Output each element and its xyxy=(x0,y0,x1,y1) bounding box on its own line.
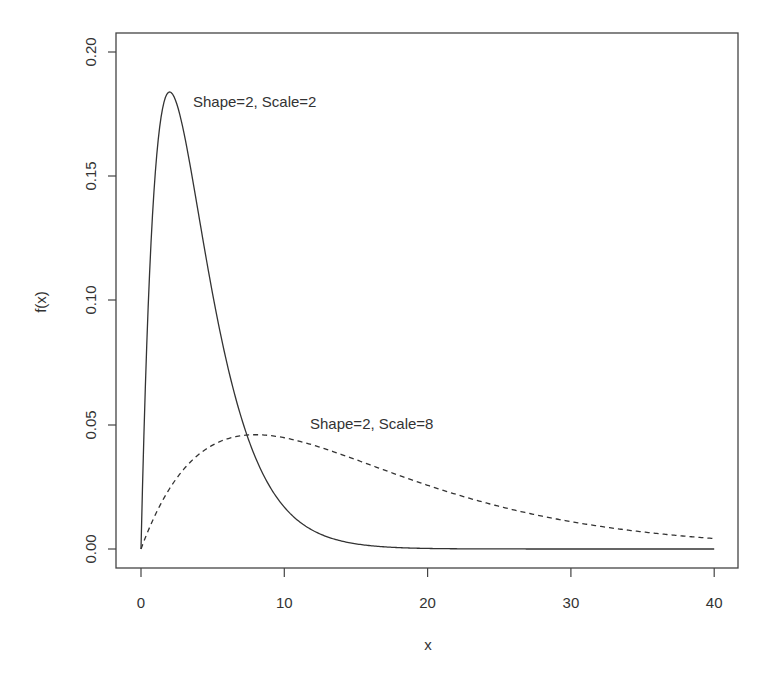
x-tick-label: 40 xyxy=(706,594,723,611)
x-axis xyxy=(141,568,714,577)
y-axis xyxy=(108,52,116,549)
plot-frame xyxy=(116,33,738,568)
x-axis-title: x xyxy=(424,636,432,653)
x-tick-label: 30 xyxy=(563,594,580,611)
series-line-shape2-scale2 xyxy=(141,92,714,549)
annotation-scale8: Shape=2, Scale=8 xyxy=(310,415,433,432)
y-tick-label: 0.05 xyxy=(82,410,99,439)
x-tick-label: 10 xyxy=(276,594,293,611)
x-tick-label: 0 xyxy=(137,594,145,611)
x-tick-label: 20 xyxy=(419,594,436,611)
gamma-density-chart: 0.00 0.05 0.10 0.15 0.20 f(x) 0 10 20 30… xyxy=(0,0,764,678)
y-tick-labels: 0.00 0.05 0.10 0.15 0.20 xyxy=(82,37,99,563)
y-tick-label: 0.00 xyxy=(82,534,99,563)
x-tick-labels: 0 10 20 30 40 xyxy=(137,594,723,611)
y-tick-label: 0.20 xyxy=(82,37,99,66)
y-tick-label: 0.10 xyxy=(82,285,99,314)
series-line-shape2-scale8 xyxy=(141,435,714,549)
annotation-scale2: Shape=2, Scale=2 xyxy=(193,93,316,110)
y-tick-label: 0.15 xyxy=(82,161,99,190)
y-axis-title: f(x) xyxy=(32,291,49,313)
